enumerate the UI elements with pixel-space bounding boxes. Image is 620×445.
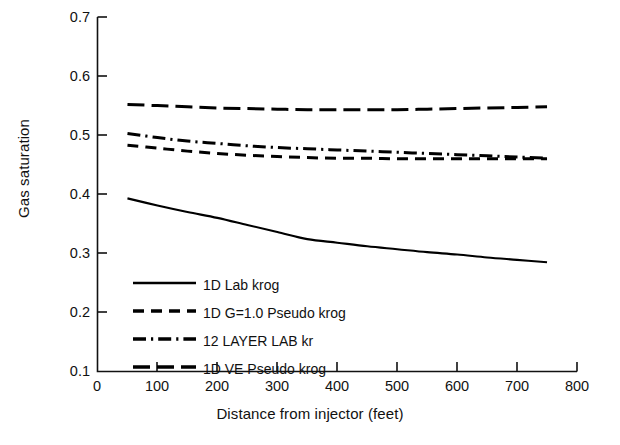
y-tick-label-0.1: 0.1 <box>44 363 90 379</box>
y-tick-label-0.6: 0.6 <box>44 68 90 84</box>
y-tick-label-0.2: 0.2 <box>44 304 90 320</box>
y-tick-label-0.4: 0.4 <box>44 186 90 202</box>
x-tick-label-600: 600 <box>434 378 480 394</box>
legend-label-1d-ve-pseudo-krog: 1D VE Pseudo krog <box>203 361 326 377</box>
x-tick-label-0: 0 <box>74 378 120 394</box>
x-tick-label-100: 100 <box>134 378 180 394</box>
legend-label-1d-g-pseudo-krog: 1D G=1.0 Pseudo krog <box>203 305 346 321</box>
y-axis-label: Gas saturation <box>15 94 32 244</box>
legend-label-1d-lab-krog: 1D Lab krog <box>203 277 279 293</box>
data-series-layer <box>127 104 547 262</box>
y-tick-label-0.7: 0.7 <box>44 9 90 25</box>
x-tick-label-700: 700 <box>494 378 540 394</box>
x-tick-label-200: 200 <box>194 378 240 394</box>
y-tick-label-0.3: 0.3 <box>44 245 90 261</box>
series-line-0 <box>127 198 547 262</box>
legend-label-12-layer-lab-kr: 12 LAYER LAB kr <box>203 333 313 349</box>
y-tick-label-0.5: 0.5 <box>44 127 90 143</box>
series-line-2 <box>127 133 547 158</box>
x-tick-label-500: 500 <box>374 378 420 394</box>
x-tick-label-300: 300 <box>254 378 300 394</box>
x-tick-label-800: 800 <box>554 378 600 394</box>
x-tick-label-400: 400 <box>314 378 360 394</box>
series-line-3 <box>127 104 547 109</box>
y-axis-ticks <box>98 17 108 312</box>
chart-figure: Gas saturation Distance from injector (f… <box>0 0 620 445</box>
legend-swatch-layer <box>133 283 196 367</box>
x-axis-label: Distance from injector (feet) <box>0 405 620 422</box>
